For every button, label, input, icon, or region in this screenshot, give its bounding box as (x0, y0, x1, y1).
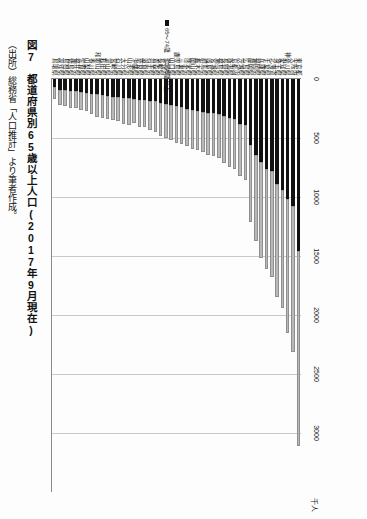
bar-row: 愛知県 (281, 79, 284, 308)
bar-segment-75-plus (217, 114, 220, 158)
bar-segment-75-plus (132, 99, 135, 123)
bar-segment-75-plus (116, 97, 119, 121)
bar-segment-75-plus (281, 190, 284, 308)
bar-segment-75-plus (191, 110, 194, 149)
bar-row: 青森県 (154, 79, 157, 132)
bar-segment-75-plus (254, 155, 257, 241)
figure-caption: 図7 都道府県別65歳以上人口(2017年9月現在) (24, 40, 39, 336)
chart-canvas: 050010001500200025003000千人東京都大阪府神奈川県愛知県埼… (40, 14, 325, 512)
bar-segment-65-74 (175, 79, 178, 106)
bar-segment-75-plus (207, 113, 210, 154)
bar-segment-75-plus (275, 184, 278, 297)
gridline (52, 256, 301, 257)
bar-row: 福島県 (217, 79, 220, 158)
bar-segment-65-74 (222, 79, 225, 116)
bar-row: 岐阜県 (207, 79, 210, 155)
bar-segment-75-plus (85, 93, 88, 112)
bar-segment-65-74 (85, 79, 88, 93)
bar-segment-65-74 (79, 79, 82, 92)
bar-segment-75-plus (79, 92, 82, 110)
bar-row: 茨城県 (238, 79, 241, 176)
bar-segment-75-plus (127, 98, 130, 125)
bar-segment-65-74 (201, 79, 204, 112)
bar-row: 栃木県 (196, 79, 199, 150)
figure-page: 図7 都道府県別65歳以上人口(2017年9月現在) （出所）総務省「人口推計」… (0, 0, 367, 519)
bar-segment-75-plus (138, 100, 141, 127)
bar-segment-65-74 (286, 79, 289, 199)
legend-swatch-75-plus (165, 60, 169, 66)
bar-row: 兵庫県 (259, 79, 262, 258)
bar-row: 石川県 (116, 79, 119, 121)
bar-row: 鹿児島県 (175, 79, 178, 143)
bar-row: 岩手県 (148, 79, 151, 130)
bar-row: 宮城県 (212, 79, 215, 156)
bar-segment-65-74 (228, 79, 231, 118)
bar-segment-75-plus (122, 98, 125, 124)
bar-segment-65-74 (58, 79, 61, 90)
bar-segment-65-74 (95, 79, 98, 94)
chart-legend: 65〜74歳75歳以上 (163, 20, 172, 92)
legend-item: 65〜74歳 (163, 20, 172, 53)
bar-segment-65-74 (275, 79, 278, 184)
x-axis-tick-label: 500 (313, 132, 320, 144)
bar-segment-75-plus (101, 95, 104, 118)
bar-row: 富山県 (106, 79, 109, 119)
bar-row: 熊本県 (185, 79, 188, 146)
bar-segment-75-plus (58, 90, 61, 105)
bar-row: 広島県 (244, 79, 247, 180)
bar-segment-65-74 (238, 79, 241, 124)
bar-segment-65-74 (90, 79, 93, 94)
x-axis-tick-label: 2500 (313, 366, 320, 382)
bar-segment-75-plus (228, 118, 231, 168)
bar-segment-65-74 (265, 79, 268, 169)
bar-row: 京都府 (233, 79, 236, 169)
bar-segment-65-74 (148, 79, 151, 101)
bar-row: 福岡県 (254, 79, 257, 241)
bar-row: 北海道 (270, 79, 273, 277)
bar-row: 島根県 (63, 79, 66, 106)
category-label: 鳥取県 (51, 58, 57, 79)
x-axis-tick-label: 2000 (313, 307, 320, 323)
bar-row: 滋賀県 (143, 79, 146, 127)
bar-segment-65-74 (101, 79, 104, 95)
legend-label: 75歳以上 (163, 68, 172, 92)
bar-segment-75-plus (53, 87, 56, 99)
bar-segment-65-74 (281, 79, 284, 190)
bar-row: 大分県 (122, 79, 125, 124)
source-note: （出所）総務省「人口推計」より筆者作成。 (6, 40, 19, 220)
bar-row: 埼玉県 (275, 79, 278, 297)
bar-segment-65-74 (154, 79, 157, 101)
plot-area: 050010001500200025003000千人東京都大阪府神奈川県愛知県埼… (51, 78, 301, 492)
bar-segment-65-74 (233, 79, 236, 119)
bar-segment-65-74 (259, 79, 262, 162)
bar-segment-75-plus (259, 162, 262, 259)
bar-segment-65-74 (122, 79, 125, 98)
bar-row: 鳥取県 (53, 79, 56, 99)
bar-segment-65-74 (244, 79, 247, 125)
bar-segment-75-plus (244, 125, 247, 180)
x-axis-tick-label: 1000 (313, 189, 320, 205)
bar-row: 三重県 (180, 79, 183, 144)
x-axis-tick-label: 3000 (313, 425, 320, 441)
bar-segment-75-plus (90, 94, 93, 115)
bar-row: 千葉県 (265, 79, 268, 269)
bar-segment-65-74 (74, 79, 77, 91)
bar-segment-75-plus (169, 105, 172, 140)
bar-segment-75-plus (222, 116, 225, 163)
bar-row: 佐賀県 (79, 79, 82, 110)
bar-segment-75-plus (175, 106, 178, 143)
bar-segment-65-74 (249, 79, 252, 145)
bar-segment-65-74 (106, 79, 109, 96)
bar-segment-65-74 (191, 79, 194, 110)
bar-segment-75-plus (74, 91, 77, 108)
legend-item: 75歳以上 (163, 60, 172, 92)
bar-segment-65-74 (254, 79, 257, 155)
bar-segment-75-plus (212, 113, 215, 155)
bar-segment-75-plus (291, 206, 294, 351)
bar-segment-65-74 (297, 79, 300, 251)
x-axis-tick-label: 1500 (313, 248, 320, 264)
bar-segment-75-plus (154, 101, 157, 132)
bar-segment-65-74 (53, 79, 56, 87)
bar-segment-65-74 (69, 79, 72, 91)
bar-segment-75-plus (270, 171, 273, 277)
